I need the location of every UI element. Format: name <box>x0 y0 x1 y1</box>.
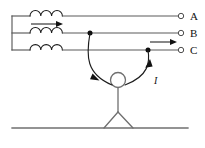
phase-c-coil-icon <box>30 45 62 50</box>
phase-c-terminal-icon <box>178 47 183 52</box>
person-right-arm-to-phase-c <box>125 50 153 85</box>
phase-b-coil-icon <box>30 28 62 33</box>
arrow-head-icon <box>170 39 177 45</box>
phase-a-group: A <box>12 10 198 27</box>
phase-b-group: B <box>12 27 197 39</box>
phase-c-group: C <box>12 44 197 56</box>
person-left-arm-to-phase-b <box>88 33 112 85</box>
phase-a-terminal-icon <box>178 13 183 18</box>
diagram-canvas: A B C <box>0 0 205 148</box>
phase-b-label: B <box>190 27 197 39</box>
phase-a-label: A <box>190 10 198 22</box>
current-label-i: I <box>153 75 158 86</box>
phase-c-label: C <box>190 44 197 56</box>
person-leg-right <box>118 112 133 128</box>
phase-b-terminal-icon <box>178 30 183 35</box>
three-phase-line-schematic: A B C <box>0 0 205 148</box>
right-arm-curve <box>125 50 149 85</box>
person-figure <box>104 73 133 129</box>
load-current-arrow <box>150 39 177 45</box>
person-head <box>111 73 126 88</box>
phase-a-source-arrow <box>31 21 63 27</box>
arrow-head-icon <box>56 21 63 27</box>
phase-a-coil-icon <box>30 11 62 16</box>
person-leg-left <box>104 112 118 128</box>
